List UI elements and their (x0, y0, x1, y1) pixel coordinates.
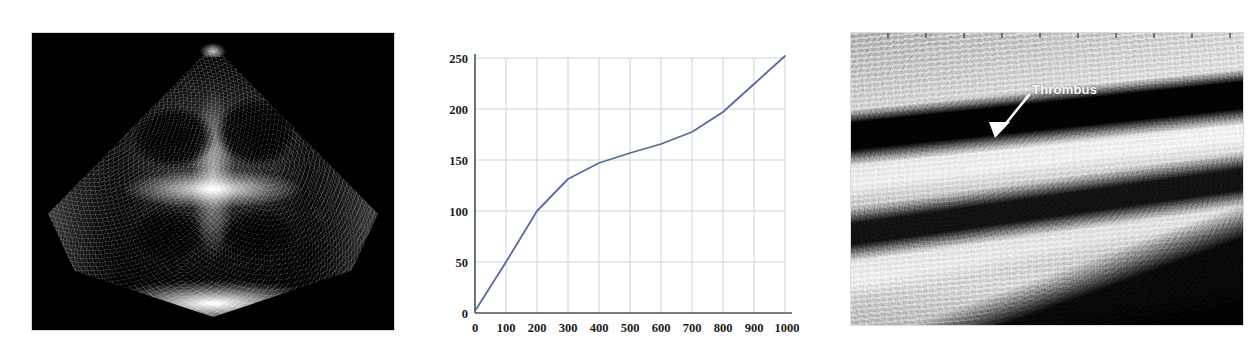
ytick-label: 100 (449, 205, 468, 219)
line-chart-panel: 0 50 100 150 200 250 0 100 200 300 400 5… (432, 36, 822, 336)
xtick-label: 600 (652, 321, 671, 335)
chart-xtick-labels: 0 100 200 300 400 500 600 700 800 900 10… (472, 321, 800, 335)
xtick-label: 200 (528, 321, 547, 335)
xtick-label: 700 (683, 321, 702, 335)
xtick-label: 0 (472, 321, 478, 335)
ultrasound-speckle-texture (851, 33, 1243, 325)
figure-root: 0 50 100 150 200 250 0 100 200 300 400 5… (0, 0, 1249, 356)
chart-ytick-labels: 0 50 100 150 200 250 (449, 52, 468, 321)
xtick-label: 300 (559, 321, 578, 335)
xtick-label: 500 (621, 321, 640, 335)
echocardiogram-image (32, 33, 394, 330)
ultrasound-apex-marker (200, 43, 226, 57)
echocardiogram-panel (32, 33, 394, 330)
ytick-label: 0 (462, 307, 468, 321)
xtick-label: 1000 (775, 321, 800, 335)
line-chart-svg: 0 50 100 150 200 250 0 100 200 300 400 5… (432, 36, 822, 336)
chart-gridlines (475, 58, 785, 313)
vascular-ultrasound-image (851, 33, 1243, 325)
ytick-label: 150 (449, 154, 468, 168)
xtick-label: 100 (497, 321, 516, 335)
ytick-label: 250 (449, 52, 468, 66)
xtick-label: 900 (745, 321, 764, 335)
ultrasound-sector (48, 45, 378, 317)
ytick-label: 50 (456, 256, 469, 270)
xtick-label: 400 (590, 321, 609, 335)
ytick-label: 200 (449, 103, 468, 117)
ultrasound-speckle-texture (48, 45, 378, 317)
ultrasound-depth-scale (851, 33, 1243, 38)
xtick-label: 800 (714, 321, 733, 335)
vascular-ultrasound-panel: Thrombus (851, 33, 1243, 325)
